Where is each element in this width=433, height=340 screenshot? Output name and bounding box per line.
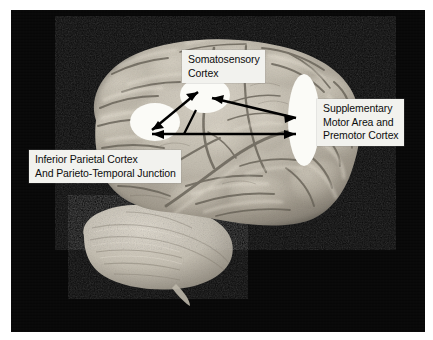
figure-canvas: Somatosensory Cortex Supplementary Motor… [0,0,433,340]
supplementary-motor-marker [288,74,320,166]
label-inferior-parietal-cortex: Inferior Parietal Cortex And Parieto-Tem… [29,150,181,183]
label-supplementary-motor-area: Supplementary Motor Area and Premotor Co… [317,99,404,146]
label-somatosensory-cortex: Somatosensory Cortex [182,50,265,83]
inferior-parietal-marker [130,103,180,141]
